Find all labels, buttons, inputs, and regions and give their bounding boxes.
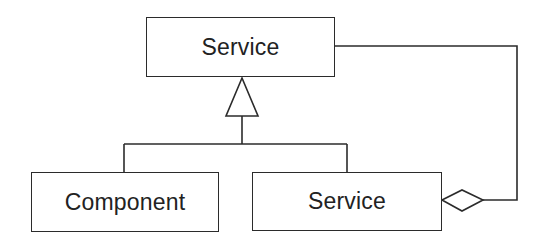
- service-class-box-bottom: Service: [252, 172, 442, 231]
- service-class-box-top: Service: [146, 17, 335, 77]
- component-class-box: Component: [31, 172, 219, 232]
- service-class-label-top: Service: [201, 34, 279, 61]
- service-class-label-bottom: Service: [308, 188, 386, 215]
- component-class-label: Component: [65, 189, 186, 216]
- hollow-triangle-arrow-icon: [226, 78, 258, 116]
- uml-diagram: Service Component Service: [0, 0, 543, 244]
- hollow-diamond-aggregation-icon: [442, 190, 483, 211]
- generalization-connector: [124, 116, 347, 172]
